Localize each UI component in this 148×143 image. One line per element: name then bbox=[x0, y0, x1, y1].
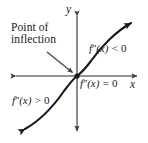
concave-down-label: f″(x) < 0 bbox=[89, 43, 127, 55]
inflection-point-figure: Point of inflection f″(x) < 0 f″(x) > 0 … bbox=[0, 0, 148, 143]
inflection-point-marker-group bbox=[74, 73, 79, 78]
y-axis-label: y bbox=[66, 3, 71, 15]
concave-down-value: 0 bbox=[121, 42, 127, 54]
second-deriv-arg: (x) bbox=[87, 77, 99, 89]
inflection-point-dot bbox=[74, 73, 79, 78]
callout-line-1: Point of bbox=[11, 21, 56, 33]
concave-up-arg: (x) bbox=[19, 94, 31, 106]
second-deriv-value: 0 bbox=[112, 77, 118, 89]
second-deriv-operator: = bbox=[102, 77, 109, 89]
callout-pointer-group bbox=[47, 52, 73, 73]
concave-down-arg: (x) bbox=[96, 42, 108, 54]
callout-line-2: inflection bbox=[11, 33, 56, 45]
x-axis-label: x bbox=[130, 78, 135, 90]
concave-up-operator: > bbox=[34, 94, 41, 106]
second-derivative-zero-label: f″(x) = 0 bbox=[80, 78, 118, 90]
concave-down-operator: < bbox=[111, 42, 118, 54]
concave-up-value: 0 bbox=[44, 94, 50, 106]
point-of-inflection-callout: Point of inflection bbox=[11, 21, 56, 45]
callout-pointer-arrow bbox=[47, 52, 73, 73]
concave-up-label: f″(x) > 0 bbox=[12, 95, 50, 107]
